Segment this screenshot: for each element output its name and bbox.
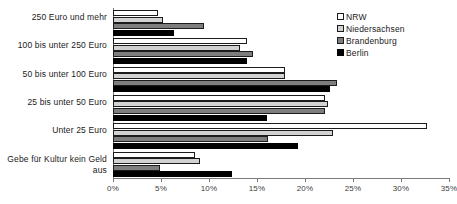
legend-item: Niedersachsen — [337, 23, 405, 34]
bar-niedersachsen — [113, 101, 328, 107]
bar-nrw — [113, 38, 247, 44]
bar-nrw — [113, 123, 427, 129]
bar-berlin — [113, 86, 330, 92]
legend-swatch-icon — [337, 37, 344, 44]
bar-niedersachsen — [113, 130, 333, 136]
bar-niedersachsen — [113, 17, 163, 23]
x-axis-tick-label: 35% — [441, 184, 457, 193]
x-axis-tick-label: 5% — [155, 184, 167, 193]
legend-item: NRW — [337, 11, 405, 22]
legend-item-label: NRW — [346, 12, 367, 22]
bar-brandenburg — [113, 23, 204, 29]
bar-nrw — [113, 95, 325, 101]
bar-group: Gebe für Kultur kein Geld aus — [113, 152, 449, 178]
category-label: 100 bis unter 250 Euro — [0, 40, 107, 51]
x-axis-tick-label: 10% — [201, 184, 218, 193]
bar-group: 25 bis unter 50 Euro — [113, 95, 449, 121]
bar-brandenburg — [113, 165, 160, 171]
legend-item-label: Brandenburg — [346, 36, 397, 46]
bar-berlin — [113, 171, 232, 177]
legend-item-label: Berlin — [346, 48, 369, 58]
legend-swatch-icon — [337, 49, 344, 56]
x-axis-tick — [113, 178, 114, 182]
legend-item: Brandenburg — [337, 35, 405, 46]
x-axis-tick — [305, 178, 306, 182]
x-axis-tick-label: 30% — [393, 184, 410, 193]
bar-nrw — [113, 152, 195, 158]
x-axis-tick-label: 0% — [107, 184, 119, 193]
bar-niedersachsen — [113, 158, 200, 164]
category-label: Gebe für Kultur kein Geld aus — [0, 154, 107, 176]
bar-brandenburg — [113, 108, 325, 114]
chart-legend: NRWNiedersachsenBrandenburgBerlin — [337, 11, 405, 59]
x-axis-tick-label: 25% — [345, 184, 362, 193]
bar-brandenburg — [113, 136, 268, 142]
category-label: 25 bis unter 50 Euro — [0, 97, 107, 108]
legend-item: Berlin — [337, 47, 405, 58]
bar-nrw — [113, 67, 285, 73]
bar-group: Unter 25 Euro — [113, 123, 449, 149]
x-axis-line — [113, 178, 450, 179]
x-axis-tick-label: 20% — [297, 184, 314, 193]
category-label: 50 bis unter 100 Euro — [0, 69, 107, 80]
bar-niedersachsen — [113, 45, 240, 51]
legend-swatch-icon — [337, 13, 344, 20]
x-axis-tick — [353, 178, 354, 182]
bar-niedersachsen — [113, 73, 285, 79]
x-axis-tick — [449, 178, 450, 182]
bar-berlin — [113, 58, 247, 64]
x-axis-tick-label: 15% — [249, 184, 266, 193]
x-axis-tick — [257, 178, 258, 182]
legend-item-label: Niedersachsen — [346, 24, 405, 34]
bar-berlin — [113, 30, 174, 36]
category-label: 250 Euro und mehr — [0, 12, 107, 23]
bar-berlin — [113, 143, 298, 149]
bar-nrw — [113, 10, 158, 16]
bar-brandenburg — [113, 80, 337, 86]
bar-group: 50 bis unter 100 Euro — [113, 67, 449, 93]
x-axis-tick — [401, 178, 402, 182]
bar-brandenburg — [113, 51, 253, 57]
x-axis-tick — [161, 178, 162, 182]
bar-berlin — [113, 115, 267, 121]
legend-swatch-icon — [337, 25, 344, 32]
category-label: Unter 25 Euro — [0, 125, 107, 136]
x-axis-tick — [209, 178, 210, 182]
